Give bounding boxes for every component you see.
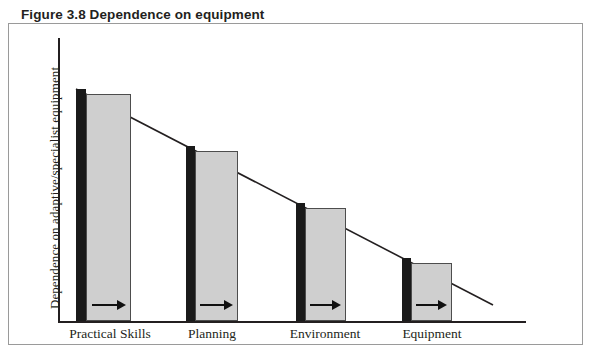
bar-grey-equipment — [411, 263, 452, 321]
x-label-environment: Environment — [265, 326, 385, 342]
x-label-planning: Planning — [157, 326, 267, 342]
figure-container: Figure 3.8 Dependence on equipment Depen… — [0, 0, 591, 360]
bar-black-planning — [186, 146, 195, 321]
x-label-equipment: Equipment — [373, 326, 491, 342]
bar-black-practical-skills — [76, 89, 86, 321]
chart-plot-area: Dependence on adaptive/specialist equipm… — [0, 0, 591, 360]
bar-grey-planning — [195, 151, 238, 321]
bar-black-environment — [296, 203, 305, 321]
bar-grey-practical-skills — [86, 94, 131, 321]
bar-grey-environment — [305, 208, 346, 321]
bar-black-equipment — [402, 258, 411, 321]
